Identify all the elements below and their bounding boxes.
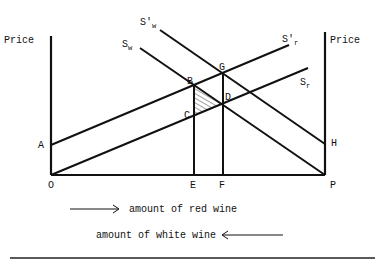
s-w-curve: [140, 48, 325, 175]
origin-O-label: O: [48, 180, 54, 191]
point-F-label: F: [219, 180, 225, 191]
red-wine-axis-caption: amount of red wine: [129, 204, 237, 215]
point-E-label: E: [190, 180, 196, 191]
left-axis-label: Price: [4, 35, 34, 46]
white-wine-axis-caption: amount of white wine: [96, 230, 216, 241]
point-D-label: D: [225, 92, 231, 103]
point-H-label: H: [331, 138, 337, 149]
right-axis-label: Price: [330, 35, 360, 46]
point-A-label: A: [38, 140, 44, 151]
s-r-prime-label: S'r: [282, 34, 298, 47]
wine-supply-diagram: Price Price S'w Sw S'r Sr A B C D G H O …: [0, 0, 384, 262]
s-w-prime-label: S'w: [140, 17, 157, 30]
s-r-curve: [51, 68, 308, 175]
point-P-label: P: [330, 180, 336, 191]
s-w-label: Sw: [122, 39, 133, 52]
point-G-label: G: [219, 62, 225, 73]
s-r-label: Sr: [300, 77, 310, 90]
point-B-label: B: [187, 76, 193, 87]
point-C-label: C: [184, 110, 190, 121]
